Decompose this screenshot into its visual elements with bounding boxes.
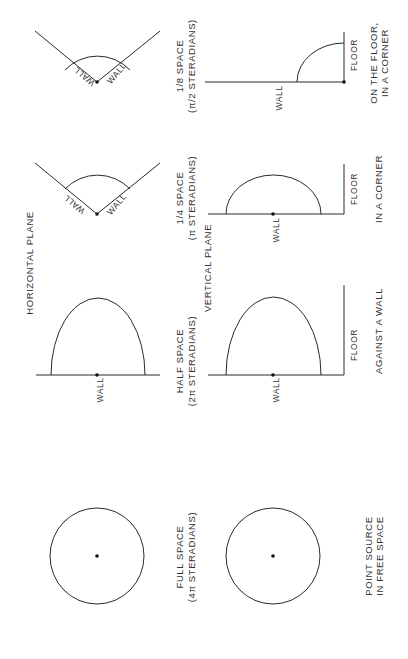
- point-source: [271, 554, 275, 558]
- wall-label: WALL: [271, 218, 281, 243]
- half-space-vertical: WALL FLOOR: [208, 285, 359, 402]
- wall-label-left: WALL: [61, 192, 86, 216]
- point-source: [95, 212, 99, 216]
- quarter-space-title: 1/4 SPACE: [174, 172, 185, 225]
- point-source: [95, 373, 99, 377]
- full-space-vertical: [226, 508, 320, 604]
- quarter-space-horizontal: WALL WALL: [35, 163, 160, 217]
- point-source: [271, 373, 275, 377]
- eighth-space-title: 1/8 SPACE: [174, 40, 185, 93]
- point-source: [271, 212, 275, 216]
- wall-label-right: WALL: [105, 191, 129, 216]
- wall-line-right: [97, 163, 160, 214]
- horizontal-plane-label: HORIZONTAL PLANE: [24, 211, 35, 315]
- eighth-space-horizontal: WALL WALL: [35, 31, 160, 88]
- quarter-space-vertical: WALL FLOOR: [208, 164, 359, 242]
- full-space-subtitle: (4π STERADIANS): [186, 512, 197, 603]
- quarter-space-subtitle: (π STERADIANS): [186, 156, 197, 241]
- radiation-arc: [226, 297, 321, 375]
- full-space-title: FULL SPACE: [174, 525, 185, 588]
- radiation-arc: [65, 175, 130, 189]
- vertical-plane-label: VERTICAL PLANE: [202, 224, 213, 312]
- half-space-caption: AGAINST A WALL: [373, 288, 384, 374]
- eighth-space-caption-line1: ON THE FLOOR,: [368, 22, 379, 104]
- radiation-arc: [51, 298, 145, 375]
- floor-label: FLOOR: [349, 39, 359, 71]
- eighth-space-caption-line2: IN A CORNER: [379, 29, 390, 97]
- wall-label: WALL: [274, 86, 284, 111]
- radiation-space-diagram: WALL WALL 1/8 SPACE (π/2 STERADIANS) WAL…: [0, 0, 408, 659]
- quarter-space-caption: IN A CORNER: [373, 155, 384, 223]
- floor-label: FLOOR: [349, 173, 359, 205]
- radiation-arc: [297, 43, 344, 82]
- wall-label: WALL: [95, 378, 105, 403]
- half-space-title: HALF SPACE: [174, 329, 185, 393]
- full-space-caption-line1: POINT SOURCE: [363, 516, 374, 595]
- wall-label: WALL: [271, 378, 281, 403]
- half-space-horizontal: WALL: [36, 298, 160, 402]
- full-space-horizontal: [50, 508, 144, 604]
- floor-label: FLOOR: [349, 329, 359, 361]
- wall-label-left: WALL: [71, 64, 96, 88]
- half-space-subtitle: (2π STERADIANS): [186, 316, 197, 407]
- radiation-arc: [226, 175, 321, 214]
- full-space-caption-line2: IN FREE SPACE: [374, 516, 385, 595]
- eighth-space-vertical: WALL FLOOR: [205, 32, 359, 110]
- point-source: [342, 80, 346, 84]
- point-source: [95, 554, 99, 558]
- eighth-space-subtitle: (π/2 STERADIANS): [186, 19, 197, 113]
